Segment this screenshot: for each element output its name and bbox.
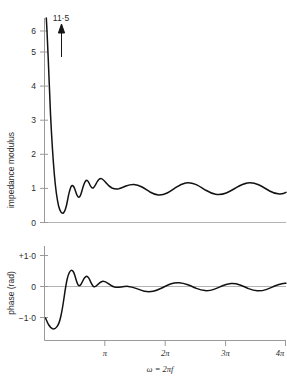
upper-ytick-4: 4 — [31, 81, 36, 91]
lower-x-ticks — [105, 341, 286, 347]
upper-ytick-3: 3 — [31, 115, 36, 125]
lower-y-axis-label: phase (rad) — [6, 271, 16, 315]
xtick-2pi: 2π — [161, 348, 170, 358]
upper-ytick-1: 1 — [31, 183, 36, 193]
figure-container: 0 1 2 3 4 5 6 impedance modulus 11·5 — [0, 0, 287, 377]
peak-value-label: 11·5 — [53, 13, 70, 23]
impedance-figure: 0 1 2 3 4 5 6 impedance modulus 11·5 — [0, 0, 287, 377]
up-arrow-icon — [58, 24, 64, 57]
xtick-4pi: 4π — [276, 348, 285, 358]
lower-ytick-minus1: −1·0 — [19, 313, 37, 323]
upper-panel: 0 1 2 3 4 5 6 impedance modulus 11·5 — [6, 13, 286, 228]
upper-ytick-2: 2 — [31, 149, 36, 159]
upper-ytick-6: 6 — [31, 26, 36, 36]
impedance-modulus-curve — [46, 18, 286, 213]
upper-ytick-0: 0 — [31, 218, 36, 228]
upper-ytick-5: 5 — [31, 47, 36, 57]
xtick-3pi: 3π — [220, 348, 230, 358]
xtick-pi: π — [103, 348, 108, 358]
peak-annotation: 11·5 — [53, 13, 70, 57]
lower-panel: +1·0 0 −1·0 phase (rad) π 2π 3π 4π ω = 2… — [6, 246, 286, 374]
lower-ytick-plus1: +1·0 — [19, 251, 37, 261]
phase-curve — [46, 270, 287, 329]
lower-ytick-zero: 0 — [31, 282, 36, 292]
upper-y-axis-label: impedance modulus — [6, 132, 16, 208]
x-axis-label: ω = 2πf — [147, 364, 175, 374]
